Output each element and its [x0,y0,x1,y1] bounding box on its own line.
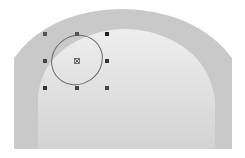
resize-handle-middle-right[interactable] [105,59,109,63]
resize-handle-top-left[interactable] [43,32,47,36]
resize-handle-bottom-center[interactable] [75,86,79,90]
resize-handle-top-center[interactable] [75,32,79,36]
resize-handle-bottom-right[interactable] [105,86,109,90]
drawing-canvas[interactable] [0,0,245,158]
resize-handle-top-right[interactable] [105,32,109,36]
resize-handle-bottom-left[interactable] [43,86,47,90]
resize-handle-middle-left[interactable] [43,59,47,63]
